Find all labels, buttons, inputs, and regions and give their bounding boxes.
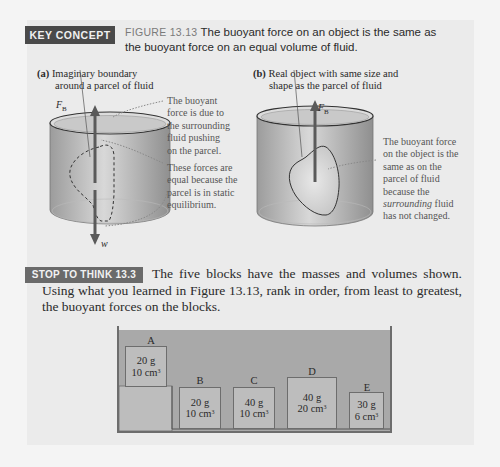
block-e: 30 g 6 cm3 <box>349 392 384 429</box>
figure-a-caption-line2: around a parcel of fluid <box>37 80 154 91</box>
key-concept-label: KEY CONCEPT <box>25 26 115 44</box>
figure-b-caption-line1: Real object with same size and <box>268 68 398 79</box>
figure-number: FIGURE 13.13 <box>125 26 197 38</box>
figure-a-note-buoyant-force: The buoyantforce is due tothe surroundin… <box>167 95 230 157</box>
block-d: 40 g 20 cm3 <box>287 377 337 429</box>
figure-b-caption: (b) Real object with same size and shape… <box>253 68 398 92</box>
block-d-letter: D <box>302 366 322 377</box>
block-b: 20 g 10 cm3 <box>179 387 221 429</box>
stop-to-think-label: STOP TO THINK 13.3 <box>25 267 143 283</box>
figure-a-part-label: (a) <box>37 68 49 79</box>
figure-b-cylinder-diagram <box>254 102 379 237</box>
block-b-letter: B <box>190 375 210 386</box>
figure-a-cylinder-diagram <box>45 95 175 245</box>
force-fb-label-b: FB <box>318 102 329 118</box>
figure-b-note: The buoyant forceon the object is thesam… <box>383 136 459 223</box>
force-fb-label-a: FB <box>56 99 67 115</box>
figure-b-part-label: (b) <box>253 68 266 79</box>
block-a-letter: A <box>141 335 161 346</box>
figure-caption: FIGURE 13.13The buoyant force on an obje… <box>125 25 445 55</box>
figure-a-caption-line1: Imaginary boundary <box>52 68 137 79</box>
force-w-label: w <box>101 238 108 250</box>
figure-b-caption-line2: shape as the parcel of fluid <box>253 80 382 91</box>
block-c-letter: C <box>244 375 264 386</box>
block-c: 40 g 10 cm3 <box>233 387 275 429</box>
figure-a-note-equilibrium: These forces areequal because theparcel … <box>167 162 238 212</box>
figure-a-caption: (a) Imaginary boundary around a parcel o… <box>37 68 154 92</box>
block-a: 20 g 10 cm3 <box>125 346 167 387</box>
